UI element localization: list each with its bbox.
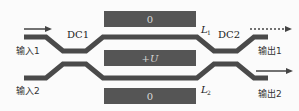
mzi-diagram: 0 +U 0 DC1 DC2 L 1 L 2 输入1 输入2 输出1 输出2	[0, 0, 299, 111]
output1-label: 输出1	[258, 45, 282, 56]
electrode-middle-label: +U	[142, 53, 159, 64]
input1-label: 输入1	[16, 45, 40, 56]
electrode-middle: +U	[104, 50, 196, 66]
dc2-label: DC2	[218, 29, 240, 40]
input-arrow-icon	[24, 26, 52, 32]
lower-waveguide	[24, 64, 268, 78]
electrode-bottom: 0	[104, 88, 196, 104]
l2-subscript: 2	[207, 89, 211, 96]
input2-label: 输入2	[16, 85, 40, 96]
l1-subscript: 1	[207, 29, 211, 36]
output1-dotted-arrow-icon	[250, 26, 292, 32]
electrode-bottom-label: 0	[147, 91, 153, 102]
output2-label: 输出2	[258, 88, 282, 99]
electrode-top: 0	[104, 11, 196, 27]
dc1-label: DC1	[67, 29, 89, 40]
output2-arrow-icon	[256, 68, 293, 74]
electrode-top-label: 0	[147, 14, 153, 25]
